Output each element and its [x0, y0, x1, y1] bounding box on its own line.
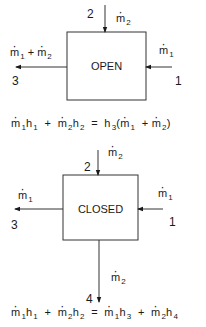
energy-balance-closed-equation: m1h1 + m2h2 = m1h3 + m2h4 [11, 306, 178, 321]
closed-flow-1-label: m1 [158, 188, 173, 202]
closed-flow-2-label: m2 [108, 147, 123, 161]
open-box-label: OPEN [67, 60, 146, 72]
closed-port-2-label: 2 [84, 161, 91, 173]
closed-port-3-label: 3 [11, 219, 18, 231]
open-flow-2-label: m2 [116, 13, 131, 27]
closed-outlet-flow-label: m1 [18, 190, 33, 204]
closed-port-1-label: 1 [169, 216, 176, 228]
open-flow-1-label: m1 [159, 45, 174, 59]
open-outlet-flow-label: m1 + m2 [10, 47, 52, 61]
open-port-1-label: 1 [175, 75, 182, 87]
closed-port-4-label: 4 [86, 293, 93, 305]
closed-box-label: CLOSED [63, 203, 138, 215]
open-port-2-label: 2 [87, 8, 94, 20]
energy-balance-open-equation: m1h1 + m2h2 = h3(m1 + m2) [11, 117, 171, 132]
closed-flow-4-label: m2 [111, 272, 126, 286]
open-port-3-label: 3 [12, 75, 19, 87]
